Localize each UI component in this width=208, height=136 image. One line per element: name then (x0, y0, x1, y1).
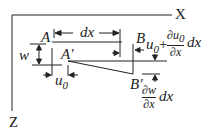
du0-tail-label: dx (187, 35, 201, 50)
dw-tail-label: dx (159, 89, 173, 104)
point-b-label: B (136, 31, 145, 46)
element-a-prime-b-prime (68, 61, 133, 74)
u0-label: u0 (55, 73, 68, 91)
u0-plus-label: u0+ (146, 37, 167, 55)
point-a-prime-label: A′ (61, 47, 73, 62)
dw-dx-fraction: ∂w ∂x (142, 84, 156, 110)
w-label: w (19, 48, 29, 63)
point-b-prime-label: B′ (130, 77, 142, 92)
dx-label: dx (80, 25, 94, 40)
z-axis-label: Z (9, 115, 18, 130)
point-a-label: A (41, 30, 50, 45)
x-axis-label: X (175, 7, 186, 22)
du0-dx-fraction: ∂u0 ∂x (167, 29, 184, 58)
